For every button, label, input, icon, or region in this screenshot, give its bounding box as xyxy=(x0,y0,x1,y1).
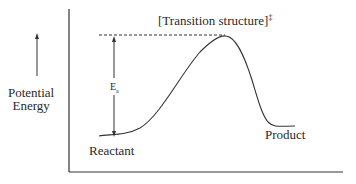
y-axis-label: Potential Energy xyxy=(8,86,54,112)
reaction-energy-curve xyxy=(99,36,295,136)
activation-energy-label: Ea xyxy=(110,82,119,94)
double-dagger-symbol: ‡ xyxy=(268,13,272,22)
product-label: Product xyxy=(265,128,305,141)
y-axis-label-line2: Energy xyxy=(8,99,54,112)
transition-structure-text: [Transition structure] xyxy=(158,13,268,28)
y-direction-arrow-icon xyxy=(35,33,39,76)
transition-structure-label: [Transition structure]‡ xyxy=(158,14,272,27)
reactant-label: Reactant xyxy=(89,144,134,157)
